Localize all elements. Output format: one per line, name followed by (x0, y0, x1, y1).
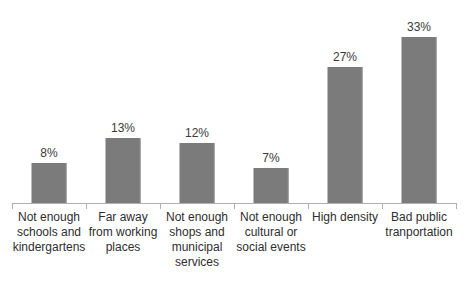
bar-rect[interactable] (180, 143, 215, 203)
bar-column (106, 0, 141, 203)
category-label-line: tranportation (382, 225, 456, 240)
category-label-line: cultural or (234, 225, 308, 240)
category-label-line: places (86, 240, 160, 255)
bar-rect[interactable] (402, 37, 437, 203)
bar-group: 27% (308, 0, 382, 203)
category-label-line: shops and (160, 225, 234, 240)
bar-column (32, 0, 67, 203)
bar-rect[interactable] (254, 168, 289, 203)
bar-value-label: 12% (185, 126, 209, 140)
bar-value-label: 7% (262, 151, 279, 165)
axis-tick (160, 203, 161, 209)
bar-value-label: 13% (111, 121, 135, 135)
category-label: High density (308, 210, 382, 225)
axis-tick (86, 203, 87, 209)
plot-area: 8%13%12%7%27%33% (12, 0, 456, 203)
category-label-line: schools and (12, 225, 86, 240)
bar-column (180, 0, 215, 203)
axis-tick (12, 203, 13, 209)
category-label-line: from working (86, 225, 160, 240)
bar-group: 33% (382, 0, 456, 203)
category-label-line: municipal (160, 240, 234, 255)
bar-chart: 8%13%12%7%27%33% Not enoughschools andki… (0, 0, 470, 282)
category-label-line: services (160, 255, 234, 270)
category-label-line: Far away (86, 210, 160, 225)
bar-group: 7% (234, 0, 308, 203)
category-label-line: Not enough (160, 210, 234, 225)
bar-column (254, 0, 289, 203)
category-label-line: social events (234, 240, 308, 255)
axis-tick (382, 203, 383, 209)
bar-rect[interactable] (328, 67, 363, 203)
category-label-line: kindergartens (12, 240, 86, 255)
bar-value-label: 27% (333, 50, 357, 64)
bar-rect[interactable] (32, 163, 67, 203)
bar-group: 8% (12, 0, 86, 203)
bar-value-label: 33% (407, 20, 431, 34)
category-label: Far awayfrom workingplaces (86, 210, 160, 255)
axis-tick (456, 203, 457, 209)
category-label-line: Not enough (12, 210, 86, 225)
bar-rect[interactable] (106, 138, 141, 203)
axis-tick (308, 203, 309, 209)
category-label: Bad publictranportation (382, 210, 456, 240)
category-label: Not enoughschools andkindergartens (12, 210, 86, 255)
bar-group: 13% (86, 0, 160, 203)
bar-value-label: 8% (40, 146, 57, 160)
bar-column (328, 0, 363, 203)
category-label-line: Not enough (234, 210, 308, 225)
category-axis-labels: Not enoughschools andkindergartensFar aw… (12, 210, 456, 282)
bar-group: 12% (160, 0, 234, 203)
category-label: Not enoughshops andmunicipalservices (160, 210, 234, 270)
axis-tick (234, 203, 235, 209)
category-label-line: Bad public (382, 210, 456, 225)
category-label: Not enoughcultural orsocial events (234, 210, 308, 255)
category-label-line: High density (308, 210, 382, 225)
